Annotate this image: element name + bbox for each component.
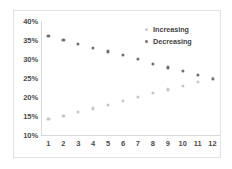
x-axis-tick-label: 9 — [166, 139, 170, 148]
y-axis-tick-label: 25% — [23, 74, 38, 83]
plot-area — [41, 21, 220, 135]
y-axis-tick-label: 20% — [23, 93, 38, 102]
data-point — [166, 88, 169, 91]
x-axis-tick-label: 1 — [46, 139, 50, 148]
data-point — [77, 42, 80, 45]
y-axis-tick-label: 40% — [23, 17, 38, 26]
data-point — [196, 80, 199, 83]
legend-item-label: Decreasing — [153, 37, 192, 46]
x-axis-tick-label: 8 — [151, 139, 155, 148]
data-point — [196, 73, 199, 76]
x-axis-tick-label: 7 — [136, 139, 140, 148]
x-axis-tick-label: 3 — [76, 139, 80, 148]
x-axis-tick-label: 6 — [121, 139, 125, 148]
data-point — [92, 46, 95, 49]
data-point — [62, 114, 65, 117]
y-axis-tick-label: 30% — [23, 55, 38, 64]
x-axis-tick-label: 2 — [61, 139, 65, 148]
data-point — [107, 50, 110, 53]
data-point — [92, 107, 95, 110]
data-point — [121, 99, 124, 102]
data-point — [151, 62, 154, 65]
x-axis-tick-label: 4 — [91, 139, 95, 148]
data-point — [121, 54, 124, 57]
x-axis-tick-label: 12 — [208, 139, 216, 148]
x-axis-tick-label: 11 — [194, 139, 202, 148]
data-point — [211, 77, 214, 80]
data-point — [181, 84, 184, 87]
data-point — [166, 66, 169, 69]
x-axis-line — [41, 135, 220, 136]
legend-item[interactable]: Decreasing — [145, 35, 192, 47]
data-point — [181, 70, 184, 73]
legend-marker-icon — [145, 28, 148, 31]
data-point — [77, 111, 80, 114]
chart-frame: 10%15%20%25%30%35%40% 123456789101112 In… — [13, 10, 221, 158]
data-point — [62, 38, 65, 41]
chart-legend: IncreasingDecreasing — [145, 23, 192, 47]
y-axis-tick-label: 15% — [23, 112, 38, 121]
data-point — [136, 95, 139, 98]
data-point — [107, 103, 110, 106]
data-point — [151, 92, 154, 95]
y-axis-tick-label: 10% — [23, 131, 38, 140]
legend-item[interactable]: Increasing — [145, 23, 192, 35]
legend-item-label: Increasing — [153, 25, 189, 34]
x-axis-tick-label: 5 — [106, 139, 110, 148]
data-point — [47, 35, 50, 38]
x-axis-tick-label: 10 — [179, 139, 187, 148]
data-point — [47, 117, 50, 120]
y-axis-tick-label: 35% — [23, 36, 38, 45]
data-point — [136, 57, 139, 60]
legend-marker-icon — [145, 40, 148, 43]
